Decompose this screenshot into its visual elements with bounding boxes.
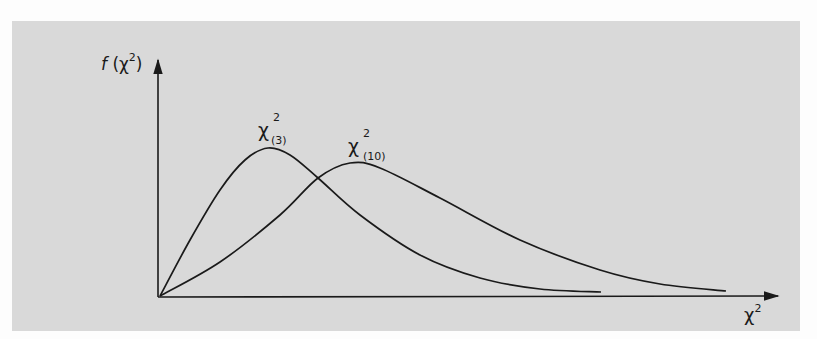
y-label-f: f bbox=[101, 54, 107, 74]
x-axis bbox=[158, 296, 778, 297]
label-chi2-10-main: χ bbox=[348, 135, 359, 157]
label-chi2-3: χ 2 (3) bbox=[258, 121, 269, 140]
y-axis-label: f (χ2) bbox=[101, 54, 143, 73]
y-label-sup: 2 bbox=[129, 51, 136, 64]
label-chi2-3-main: χ bbox=[258, 119, 269, 141]
label-chi2-10: χ 2 (10) bbox=[348, 137, 359, 156]
label-chi2-10-sub: (10) bbox=[363, 151, 386, 162]
chart-plot bbox=[0, 0, 817, 339]
label-chi2-10-sup: 2 bbox=[363, 128, 370, 139]
y-label-open: (χ bbox=[112, 54, 128, 74]
label-chi2-3-sub: (3) bbox=[271, 135, 287, 146]
x-axis-label: χ2 bbox=[744, 305, 761, 324]
x-label-main: χ bbox=[744, 304, 754, 325]
curve-chi2-10 bbox=[160, 162, 726, 296]
x-label-sup: 2 bbox=[754, 302, 761, 315]
y-label-close: ) bbox=[136, 54, 143, 74]
label-chi2-3-sup: 2 bbox=[273, 112, 280, 123]
curve-chi2-3 bbox=[160, 148, 601, 296]
